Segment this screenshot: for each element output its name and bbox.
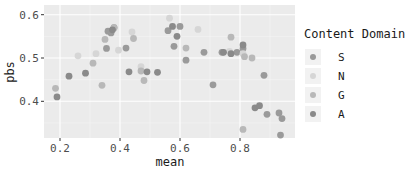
data-point-s: [277, 132, 284, 139]
data-point-n: [166, 15, 173, 22]
data-point-n: [129, 29, 136, 36]
data-point-g: [228, 34, 235, 41]
data-point-a: [82, 70, 89, 77]
data-point-g: [249, 55, 256, 62]
data-point-a: [174, 33, 181, 40]
data-point-g: [130, 35, 137, 42]
data-point-a: [228, 50, 235, 57]
x-tick-label: 0.6: [170, 142, 190, 155]
legend-label: S: [338, 51, 345, 64]
y-axis: 0.40.50.6: [19, 9, 44, 109]
y-tick-label: 0.6: [19, 9, 39, 22]
data-point-s: [177, 23, 184, 30]
data-point-n: [93, 50, 100, 57]
data-point-a: [154, 69, 161, 76]
data-point-n: [75, 52, 82, 59]
data-point-s: [123, 45, 130, 52]
data-point-a: [54, 94, 61, 101]
data-point-s: [264, 111, 271, 118]
data-point-s: [261, 72, 268, 79]
data-point-n: [195, 26, 202, 33]
data-point-s: [171, 43, 178, 50]
scatter-chart: 0.20.40.60.8 0.40.50.6 mean pbs Content …: [0, 0, 411, 179]
data-point-a: [66, 73, 73, 80]
data-point-a: [220, 49, 227, 56]
data-point-s: [103, 45, 110, 52]
data-point-s: [210, 81, 217, 88]
data-point-g: [99, 82, 106, 89]
data-point-s: [201, 49, 208, 56]
y-tick-label: 0.5: [19, 52, 39, 65]
data-point-g: [90, 60, 97, 67]
data-point-g: [141, 77, 148, 84]
data-point-s: [279, 115, 286, 122]
legend-title: Content Domain: [304, 27, 405, 41]
data-point-a: [169, 23, 176, 30]
data-point-a: [144, 68, 151, 75]
y-axis-title: pbs: [3, 61, 17, 83]
data-point-a: [109, 26, 116, 33]
legend-label: N: [338, 70, 345, 83]
data-point-g: [52, 85, 59, 92]
data-point-g: [138, 68, 145, 75]
x-tick-label: 0.4: [110, 142, 130, 155]
data-point-a: [126, 68, 133, 75]
data-point-a: [256, 102, 263, 109]
legend-swatch-a: [310, 111, 316, 117]
data-point-g: [183, 45, 190, 52]
legend-label: G: [338, 89, 345, 102]
x-tick-label: 0.8: [230, 142, 250, 155]
x-axis: 0.20.40.60.8: [50, 138, 250, 155]
legend: Content Domain SNGA: [304, 27, 405, 122]
legend-swatch-s: [310, 54, 316, 60]
data-point-g: [240, 126, 247, 133]
data-point-s: [234, 49, 241, 56]
data-point-g: [102, 36, 109, 43]
x-axis-title: mean: [156, 155, 185, 169]
x-tick-label: 0.2: [50, 142, 70, 155]
y-tick-label: 0.4: [19, 95, 39, 108]
legend-swatch-n: [310, 73, 316, 79]
legend-label: A: [338, 108, 345, 121]
data-point-g: [241, 53, 248, 60]
data-point-n: [115, 47, 122, 54]
legend-swatch-g: [310, 92, 316, 98]
data-point-a: [240, 42, 247, 49]
data-point-s: [183, 57, 190, 64]
